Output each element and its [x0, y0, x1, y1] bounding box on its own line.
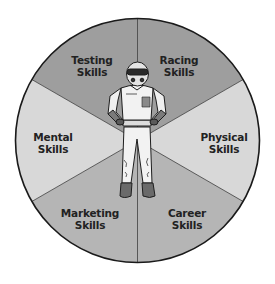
label-line: Physical — [184, 131, 264, 143]
label-line: Skills — [13, 143, 93, 155]
label-line: Marketing — [50, 207, 130, 219]
label-line: Skills — [52, 66, 132, 78]
label-line: Skills — [184, 143, 264, 155]
label-line: Skills — [139, 66, 219, 78]
label-line: Testing — [52, 54, 132, 66]
label-racing-skills: Racing Skills — [139, 54, 219, 78]
label-marketing-skills: Marketing Skills — [50, 207, 130, 231]
label-career-skills: Career Skills — [147, 207, 227, 231]
label-line: Racing — [139, 54, 219, 66]
label-line: Mental — [13, 131, 93, 143]
label-line: Skills — [147, 219, 227, 231]
label-physical-skills: Physical Skills — [184, 131, 264, 155]
label-line: Skills — [50, 219, 130, 231]
label-line: Career — [147, 207, 227, 219]
label-testing-skills: Testing Skills — [52, 54, 132, 78]
label-mental-skills: Mental Skills — [13, 131, 93, 155]
